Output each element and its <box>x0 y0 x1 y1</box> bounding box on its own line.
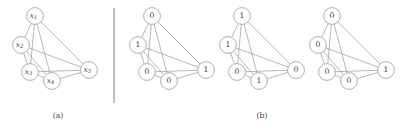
graph-edge <box>146 48 198 67</box>
graph-edge <box>60 72 81 78</box>
graph-edge <box>25 24 32 38</box>
graph-node: 0 <box>144 8 161 25</box>
figure-container: x1x2x3x4x5010011101000001 (a)(b) <box>0 0 414 133</box>
graph-edge <box>238 24 242 63</box>
graph-edge <box>357 72 378 78</box>
graph-edge <box>231 53 235 64</box>
graph-node: x1 <box>27 8 44 25</box>
graph-edge <box>236 48 288 67</box>
graph-node: 0 <box>310 37 327 54</box>
graph-node-label: 0 <box>316 40 321 49</box>
graph-edge <box>38 75 44 78</box>
graph-edge <box>142 24 149 38</box>
graph-node: 0 <box>324 8 341 25</box>
graph-edge <box>245 75 251 78</box>
panel-caption: (a) <box>53 111 63 120</box>
graph-edge <box>24 53 28 64</box>
graph-node: 0 <box>319 64 336 81</box>
graph-edge <box>29 48 81 67</box>
graph-node: 0 <box>229 64 246 81</box>
graph-node: x2 <box>13 37 30 54</box>
graph-edge <box>335 70 377 71</box>
graph-node-label-subscript: 5 <box>88 69 91 75</box>
graph-node-label: 0 <box>167 76 172 85</box>
nodes-layer: x1x2x3x4x5010011101000001 <box>13 8 395 90</box>
graph-node-label: 0 <box>294 65 299 74</box>
graph-edge <box>232 24 239 38</box>
graph-node-label-subscript: 2 <box>19 44 23 50</box>
graph-node-label: 1 <box>136 40 141 49</box>
graph-node-label-subscript: 4 <box>50 80 54 86</box>
graph-edge <box>141 53 145 64</box>
graph-edge <box>38 70 80 71</box>
graph-edge <box>155 70 197 71</box>
graph-node: 1 <box>251 73 268 90</box>
graph-node: 1 <box>130 37 147 54</box>
graph-node-label: 0 <box>325 67 330 76</box>
graph-edge <box>321 53 325 64</box>
graph-node-label: 1 <box>240 11 245 20</box>
graph-node-label: 0 <box>347 76 352 85</box>
graph-node: 0 <box>161 73 178 90</box>
graph-edge <box>338 22 380 64</box>
graph-node: 0 <box>288 62 305 79</box>
graph-node: 1 <box>220 37 237 54</box>
graph-node-label: 0 <box>330 11 335 20</box>
graph-node: x5 <box>81 62 98 79</box>
graph-node: 1 <box>234 8 251 25</box>
graph-node-label: 0 <box>235 67 240 76</box>
graph-edge <box>31 24 35 63</box>
graph-node: 1 <box>198 62 215 79</box>
graph-node-label: 0 <box>145 67 150 76</box>
graph-node: 0 <box>341 73 358 90</box>
graph-node: x3 <box>22 64 39 81</box>
graph-edge <box>155 75 161 78</box>
graph-edge <box>158 22 200 64</box>
graph-node-label: 0 <box>150 11 155 20</box>
graph-node: 1 <box>378 62 395 79</box>
graph-edge <box>335 75 341 78</box>
graph-node-label: 1 <box>384 65 389 74</box>
graph-node-label: 1 <box>226 40 231 49</box>
graph-node: x4 <box>44 73 61 90</box>
graph-edge <box>245 70 287 71</box>
graph-node-label: 1 <box>257 76 262 85</box>
graph-edge <box>322 24 329 38</box>
graph-node-label-subscript: 1 <box>34 15 37 21</box>
graph-edge <box>41 22 83 64</box>
graph-edge <box>177 72 198 78</box>
graph-edge <box>326 48 378 67</box>
graph-edge <box>148 24 152 63</box>
panel-captions-layer: (a)(b) <box>53 111 268 120</box>
graph-edge <box>267 72 288 78</box>
graph-figure-canvas: x1x2x3x4x5010011101000001 (a)(b) <box>0 0 414 133</box>
graph-edge <box>248 22 290 64</box>
panel-caption: (b) <box>257 111 268 120</box>
graph-edge <box>328 24 332 63</box>
graph-node: 0 <box>139 64 156 81</box>
graph-node-label: 1 <box>204 65 209 74</box>
